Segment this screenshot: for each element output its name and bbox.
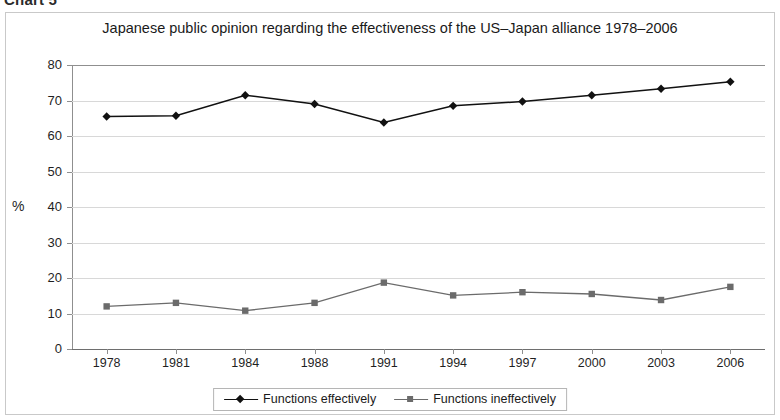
legend-label: Functions effectively — [263, 392, 376, 406]
chart-legend: Functions effectively Functions ineffect… — [213, 388, 567, 411]
data-point-marker — [450, 292, 456, 298]
chart-figure: Chart 5 Japanese public opinion regardin… — [0, 0, 780, 420]
data-point-marker — [727, 284, 733, 290]
x-tick-mark — [730, 349, 731, 354]
data-point-marker — [310, 100, 318, 108]
x-tick-mark — [176, 349, 177, 354]
data-point-marker — [102, 112, 110, 120]
data-point-marker — [241, 91, 249, 99]
diamond-marker-icon — [224, 394, 258, 404]
y-tick-mark — [67, 278, 72, 279]
y-tick-label: 20 — [22, 270, 62, 285]
legend-item-functions-effectively: Functions effectively — [224, 392, 376, 406]
x-tick-label: 1988 — [285, 356, 345, 370]
y-tick-mark — [67, 172, 72, 173]
legend-label: Functions ineffectively — [433, 392, 556, 406]
square-marker-icon — [394, 394, 428, 404]
x-tick-label: 1981 — [146, 356, 206, 370]
data-point-marker — [242, 307, 248, 313]
x-tick-mark — [592, 349, 593, 354]
y-tick-mark — [67, 349, 72, 350]
data-point-marker — [519, 289, 525, 295]
x-tick-label: 1994 — [423, 356, 483, 370]
data-point-marker — [449, 102, 457, 110]
x-tick-label: 2003 — [631, 356, 691, 370]
x-tick-mark — [245, 349, 246, 354]
data-point-marker — [588, 91, 596, 99]
series-line — [107, 82, 731, 123]
y-tick-label: 0 — [22, 341, 62, 356]
x-tick-mark — [661, 349, 662, 354]
y-tick-label: 10 — [22, 306, 62, 321]
data-point-marker — [311, 300, 317, 306]
data-point-marker — [103, 303, 109, 309]
legend-item-functions-ineffectively: Functions ineffectively — [394, 392, 556, 406]
x-tick-label: 1997 — [492, 356, 552, 370]
x-tick-mark — [315, 349, 316, 354]
data-point-marker — [381, 279, 387, 285]
y-tick-label: 40 — [22, 199, 62, 214]
x-tick-mark — [384, 349, 385, 354]
y-tick-mark — [67, 243, 72, 244]
x-tick-mark — [107, 349, 108, 354]
x-tick-label: 2000 — [562, 356, 622, 370]
x-tick-label: 1978 — [77, 356, 137, 370]
data-point-marker — [726, 77, 734, 85]
y-tick-mark — [67, 314, 72, 315]
data-point-marker — [589, 291, 595, 297]
y-tick-mark — [67, 207, 72, 208]
y-tick-mark — [67, 136, 72, 137]
y-tick-mark — [67, 65, 72, 66]
y-tick-label: 30 — [22, 235, 62, 250]
y-tick-label: 60 — [22, 128, 62, 143]
x-tick-label: 1984 — [215, 356, 275, 370]
data-point-marker — [173, 300, 179, 306]
y-tick-label: 70 — [22, 93, 62, 108]
data-point-marker — [658, 297, 664, 303]
x-tick-label: 1991 — [354, 356, 414, 370]
data-point-marker — [380, 118, 388, 126]
x-tick-label: 2006 — [700, 356, 760, 370]
x-tick-mark — [453, 349, 454, 354]
y-tick-label: 80 — [22, 57, 62, 72]
data-point-marker — [172, 112, 180, 120]
y-tick-mark — [67, 101, 72, 102]
data-point-marker — [518, 97, 526, 105]
x-tick-mark — [522, 349, 523, 354]
series-line — [107, 283, 731, 311]
data-point-marker — [657, 85, 665, 93]
y-tick-label: 50 — [22, 164, 62, 179]
